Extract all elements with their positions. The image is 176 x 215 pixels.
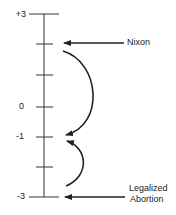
curved-arrow-up xyxy=(66,141,83,186)
scale-label-plus-3: +3 xyxy=(12,10,26,19)
curved-arrow-down xyxy=(63,51,93,135)
abortion-label-line2: Abortion xyxy=(130,195,164,204)
scale-label-minus-3: -3 xyxy=(11,192,25,201)
nixon-label: Nixon xyxy=(127,38,150,47)
abortion-label-line1: Legalized xyxy=(129,184,168,193)
scale-label-0: 0 xyxy=(10,102,24,111)
scale-label-minus-1: -1 xyxy=(10,132,24,141)
